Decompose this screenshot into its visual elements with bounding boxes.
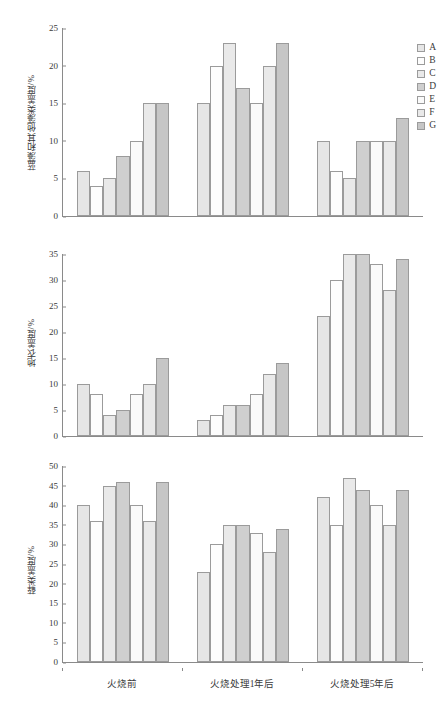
y-axis-tick-mark xyxy=(63,642,66,643)
legend: ABCDEFG xyxy=(417,42,436,131)
y-axis-tick-label: 10 xyxy=(49,136,63,145)
bar xyxy=(210,66,223,216)
y-axis-tick-label: 30 xyxy=(49,276,63,285)
y-axis-tick-label: 35 xyxy=(49,520,63,529)
bar xyxy=(343,178,356,216)
panel-algae-cover: 蓝藻和其他藻类盖度/% 0510152025 xyxy=(0,22,444,222)
bar xyxy=(276,43,289,216)
bar xyxy=(383,525,396,662)
legend-item-g: G xyxy=(417,120,436,131)
y-axis-tick-label: 5 xyxy=(54,174,64,183)
bar xyxy=(210,415,223,436)
y-axis-tick-mark xyxy=(63,358,66,359)
bar xyxy=(317,141,330,216)
y-axis-tick-mark xyxy=(63,525,66,526)
y-axis-tick-label: 15 xyxy=(49,599,63,608)
y-axis-title-panel-1: 蓝藻和其他藻类盖度/% xyxy=(24,34,37,210)
bar xyxy=(263,66,276,216)
y-axis-tick-label: 50 xyxy=(49,462,63,471)
y-axis-tick-label: 40 xyxy=(49,501,63,510)
y-axis-title-panel-2: 地衣盖度/% xyxy=(24,278,37,408)
bar xyxy=(343,478,356,662)
bar-group-container-panel-3 xyxy=(63,466,423,662)
bar xyxy=(130,141,143,216)
bar-group-container-panel-2 xyxy=(63,254,423,436)
legend-item-d: D xyxy=(417,81,436,92)
bar xyxy=(130,394,143,436)
legend-item-label: C xyxy=(429,69,435,79)
y-axis-tick-mark xyxy=(63,66,66,67)
y-axis-tick-label: 45 xyxy=(49,481,63,490)
bar xyxy=(356,141,369,216)
legend-swatch-icon xyxy=(417,122,425,130)
bar xyxy=(317,497,330,662)
y-axis-tick-label: 25 xyxy=(49,302,63,311)
legend-item-e: E xyxy=(417,94,436,105)
bar xyxy=(370,264,383,436)
legend-item-b: B xyxy=(417,55,436,66)
y-axis-tick-mark xyxy=(63,216,66,217)
bar xyxy=(130,505,143,662)
bar xyxy=(156,358,169,436)
y-axis-tick-mark xyxy=(63,384,66,385)
bar xyxy=(156,482,169,662)
legend-item-label: F xyxy=(429,108,434,118)
bar xyxy=(356,490,369,662)
legend-swatch-icon xyxy=(417,96,425,104)
y-axis-tick-mark xyxy=(63,306,66,307)
bar xyxy=(197,572,210,662)
bar xyxy=(250,103,263,216)
bar xyxy=(116,410,129,436)
x-axis-tick-mark xyxy=(302,668,303,671)
y-axis-tick-label: 30 xyxy=(49,540,63,549)
bar xyxy=(197,420,210,436)
y-axis-tick-mark xyxy=(63,254,66,255)
legend-item-label: E xyxy=(429,95,435,105)
bar xyxy=(223,43,236,216)
bar xyxy=(317,316,330,436)
legend-item-label: G xyxy=(429,121,436,131)
bar xyxy=(250,394,263,436)
y-axis-tick-mark xyxy=(63,584,66,585)
y-axis-tick-mark xyxy=(63,436,66,437)
x-axis-label-0: 火烧前 xyxy=(107,676,137,690)
bar xyxy=(330,525,343,662)
y-axis-tick-label: 20 xyxy=(49,61,63,70)
bar xyxy=(223,525,236,662)
bar xyxy=(396,259,409,436)
legend-item-label: A xyxy=(429,43,436,53)
bar xyxy=(77,384,90,436)
y-axis-tick-label: 5 xyxy=(54,406,64,415)
bar xyxy=(370,141,383,216)
bar xyxy=(103,178,116,216)
legend-item-label: B xyxy=(429,56,435,66)
bar xyxy=(197,103,210,216)
bar xyxy=(223,405,236,436)
bar xyxy=(396,118,409,216)
y-axis-tick-mark xyxy=(63,486,66,487)
bar xyxy=(210,544,223,662)
y-axis-tick-label: 15 xyxy=(49,354,63,363)
x-axis-labels: 火烧前火烧处理1年后火烧处理5年后 xyxy=(62,668,422,692)
plot-area-panel-2: 05101520253035 xyxy=(62,254,423,437)
panel-moss-cover: 藓类盖度/% 05101520253035404550 xyxy=(0,460,444,670)
bar xyxy=(156,103,169,216)
y-axis-tick-label: 25 xyxy=(49,24,63,33)
bar xyxy=(90,521,103,662)
bar xyxy=(77,171,90,216)
bar xyxy=(236,88,249,216)
panel-lichen-cover: 地衣盖度/% 05101520253035 xyxy=(0,248,444,438)
y-axis-tick-mark xyxy=(63,505,66,506)
y-axis-tick-label: 20 xyxy=(49,579,63,588)
legend-item-c: C xyxy=(417,68,436,79)
figure-root: 蓝藻和其他藻类盖度/% 0510152025 地衣盖度/% 0510152025… xyxy=(0,0,444,704)
y-axis-tick-mark xyxy=(63,544,66,545)
y-axis-tick-label: 15 xyxy=(49,99,63,108)
bar xyxy=(263,552,276,662)
x-axis-tick-mark xyxy=(422,668,423,671)
y-axis-tick-mark xyxy=(63,28,66,29)
bar xyxy=(370,505,383,662)
bar xyxy=(276,529,289,662)
plot-area-panel-1: 0510152025 xyxy=(62,28,423,217)
bar xyxy=(236,525,249,662)
